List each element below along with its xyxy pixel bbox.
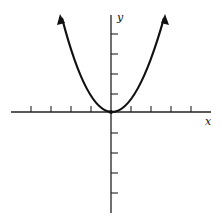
x-axis-label: x (205, 115, 212, 128)
vertex-point (109, 110, 113, 114)
y-axis-label: y (116, 11, 124, 24)
parabola-curve (62, 18, 164, 112)
parabola-graph: y x (0, 0, 222, 223)
